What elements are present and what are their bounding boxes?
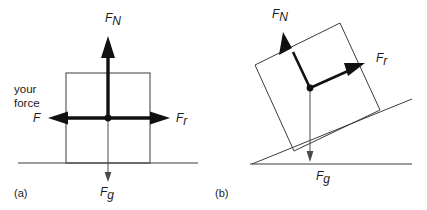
annotation-your-force-line1: your: [14, 83, 37, 95]
incline-surface-b: [252, 99, 412, 164]
label-normal-force-b-subscript: N: [279, 10, 288, 24]
box-shape-b: [255, 23, 380, 151]
label-normal-force-b: FN: [272, 7, 288, 24]
gravity-force-arrow-b: [307, 88, 314, 162]
label-friction-force-a-subscript: r: [183, 114, 188, 128]
friction-force-arrow-b: [310, 63, 365, 88]
panel-tag-a: (a): [14, 187, 27, 199]
label-gravity-force-a-subscript: g: [107, 188, 114, 202]
label-friction-force-b-subscript: r: [383, 54, 388, 68]
panel-b-group: FN Fr Fg (b): [215, 7, 412, 199]
center-of-mass-dot-a: [105, 115, 112, 122]
label-gravity-force-b: Fg: [316, 169, 330, 186]
center-of-mass-dot-b: [307, 85, 314, 92]
label-friction-force-a: Fr: [176, 111, 188, 128]
label-friction-force-b: Fr: [376, 51, 388, 68]
label-applied-force-a: F: [33, 111, 41, 125]
friction-force-arrow-a: [108, 112, 170, 125]
gravity-force-arrow-a: [105, 118, 112, 182]
normal-force-arrow-a: [101, 36, 115, 118]
force-diagram-svg: FN F Fr Fg your force (a): [0, 0, 427, 210]
applied-force-arrow-a: [48, 112, 108, 125]
label-normal-force-a-subscript: N: [112, 14, 121, 28]
panel-a-group: FN F Fr Fg your force (a): [14, 11, 198, 202]
label-normal-force-a: FN: [105, 11, 121, 28]
annotation-your-force-line2: force: [14, 97, 40, 109]
label-gravity-force-a: Fg: [100, 185, 114, 202]
physics-figure: FN F Fr Fg your force (a): [0, 0, 427, 210]
label-gravity-force-b-subscript: g: [323, 172, 330, 186]
panel-tag-b: (b): [215, 187, 228, 199]
